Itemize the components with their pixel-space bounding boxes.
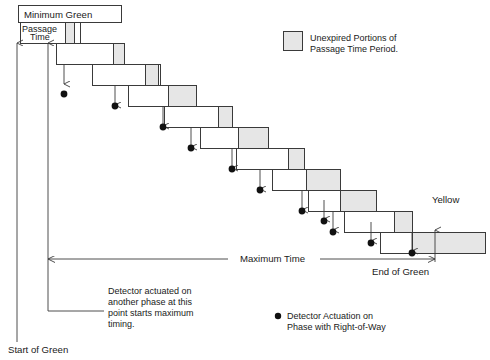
detector-note-line1: Detector actuated on (108, 286, 192, 296)
detector-note-line2: another phase at this (108, 297, 193, 307)
legend-detector: Detector Actuation on Phase with Right-o… (275, 311, 386, 332)
legend-swatch-icon (283, 31, 302, 50)
step-bar-4 (128, 85, 196, 106)
detector-dot (188, 145, 195, 152)
minimum-green-box: Minimum Green (18, 5, 121, 22)
yellow-label: Yellow (432, 194, 459, 205)
detector-dot (229, 166, 236, 173)
minimum-green-label: Minimum Green (24, 9, 92, 20)
passage-time-label-line2: Time (30, 32, 50, 42)
unexpired-portion (65, 22, 74, 43)
detector-dot (330, 229, 337, 236)
legend-unexpired-line2: Passage Time Period. (310, 44, 398, 54)
start-of-green-label: Start of Green (8, 344, 68, 355)
unexpired-portion (218, 106, 232, 127)
yellow-interval (412, 232, 485, 253)
step-bar-6 (200, 127, 268, 148)
unexpired-portion (306, 169, 340, 190)
step-bar-2 (56, 43, 124, 64)
unexpired-portion (168, 85, 196, 106)
legend-detector-line2: Phase with Right-of-Way (287, 322, 386, 332)
detector-dot (257, 187, 264, 194)
unexpired-portion (145, 64, 158, 85)
unexpired-portion (113, 43, 124, 64)
step-bar-8 (272, 169, 340, 190)
maximum-time-label: Maximum Time (240, 253, 305, 264)
legend-detector-line1: Detector Actuation on (287, 311, 373, 321)
step-bar-9 (308, 190, 376, 211)
passage-time-diagram: Minimum Green Passage Time Unexpired Por… (0, 0, 490, 360)
detector-dot (299, 208, 306, 215)
step-bar-11-yellow (380, 232, 485, 253)
detector-dot (409, 250, 416, 257)
detector-dot (112, 103, 119, 110)
unexpired-portion (238, 127, 268, 148)
legend-dot-icon (275, 313, 281, 319)
detector-dot (321, 218, 328, 225)
detector-dot (61, 91, 68, 98)
unexpired-portion (394, 211, 412, 232)
end-of-green-label: End of Green (372, 266, 429, 277)
step-bar-5 (164, 106, 232, 127)
detector-note-line4: timing. (108, 319, 135, 329)
legend-unexpired-line1: Unexpired Portions of (310, 33, 397, 43)
detector-note-line3: point starts maximum (108, 308, 194, 318)
step-bar-7 (236, 148, 304, 169)
step-bar-10 (344, 211, 412, 232)
unexpired-portion (288, 148, 304, 169)
unexpired-portion (340, 190, 376, 211)
step-bar-3 (92, 64, 160, 85)
detector-dot (368, 240, 375, 247)
detector-dot (160, 124, 167, 131)
